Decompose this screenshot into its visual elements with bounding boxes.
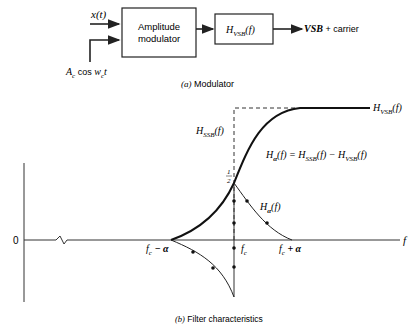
block1-line1: Amplitude [138, 21, 180, 32]
filter-characteristics-plot: 0 f HVSB(f) HSSB(f) Hα [13, 102, 408, 324]
frequency-axis [24, 236, 400, 244]
fc-label: fc [241, 243, 248, 257]
block2-label: HVSB(f) [225, 24, 255, 38]
f-axis-label: f [403, 234, 408, 246]
half-numerator: 1 [227, 168, 231, 176]
carrier-arrow [90, 40, 119, 62]
output-label: VSB + carrier [304, 23, 359, 34]
halpha-equation: Hα(f) = HSSB(f) − HVSB(f) [265, 149, 367, 163]
halpha-lower-curve [171, 240, 234, 297]
halpha-label: Hα(f) [259, 201, 281, 215]
caption-b: (b) Filter characteristics [175, 314, 263, 324]
modulator-block-diagram: x(t) Ac cos wct Amplitude modulator HVSB… [65, 8, 359, 89]
hvsb-label: HVSB(f) [372, 102, 402, 116]
half-denominator: 2 [227, 177, 231, 185]
block1-line2: modulator [138, 33, 180, 44]
hvsb-filter-block [215, 14, 273, 44]
fc-plus-alpha-label: fc + α [279, 243, 302, 257]
carrier-label: Ac cos wct [65, 66, 107, 80]
caption-a: (a) Modulator [181, 79, 234, 89]
sample-dots [191, 199, 269, 270]
hssb-label: HSSB(f) [195, 125, 225, 139]
hssb-ideal-curve [234, 108, 298, 240]
input-signal-label: x(t) [90, 8, 107, 21]
fc-minus-alpha-label: fc − α [146, 243, 169, 257]
zero-label: 0 [13, 235, 19, 246]
vsb-diagram: x(t) Ac cos wct Amplitude modulator HVSB… [0, 0, 419, 331]
